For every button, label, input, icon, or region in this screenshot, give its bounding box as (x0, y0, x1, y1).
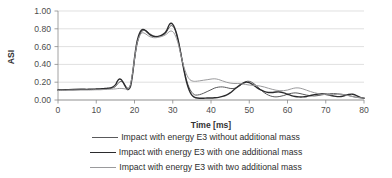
legend-swatch-series-1 (92, 137, 118, 138)
chart-plot-area: 0.000.200.400.600.801.00 010203040506070… (0, 0, 392, 132)
x-axis-title: Time [ms] (191, 120, 232, 130)
data-series-line-2 (58, 23, 364, 98)
y-axis-tick-labels: 0.000.200.400.600.801.00 (34, 6, 51, 105)
x-tick-label: 70 (321, 105, 331, 115)
legend-item: Impact with energy E3 with two additiona… (90, 160, 302, 174)
x-axis-tick-labels: 01020304050607080 (56, 105, 369, 115)
legend-item: Impact with energy E3 without additional… (92, 130, 300, 144)
y-tick-label: 0.00 (34, 95, 51, 105)
chart-legend: Impact with energy E3 without additional… (0, 130, 392, 174)
legend-label-series-2: Impact with energy E3 with one additiona… (119, 147, 303, 157)
x-tick-label: 30 (168, 105, 178, 115)
x-tick-label: 0 (56, 105, 61, 115)
y-tick-label: 0.20 (34, 77, 51, 87)
y-tick-label: 1.00 (34, 6, 51, 16)
x-tick-label: 20 (130, 105, 140, 115)
legend-swatch-series-2 (90, 152, 116, 153)
legend-item: Impact with energy E3 with one additiona… (90, 145, 303, 159)
data-series-line-1 (58, 26, 364, 98)
chart-figure: 0.000.200.400.600.801.00 010203040506070… (0, 0, 392, 178)
x-tick-label: 80 (359, 105, 369, 115)
y-tick-label: 0.40 (34, 59, 51, 69)
y-axis-title: ASI (6, 50, 16, 64)
legend-label-series-3: Impact with energy E3 with two additiona… (119, 162, 302, 172)
legend-swatch-series-3 (90, 167, 116, 168)
x-tick-label: 40 (206, 105, 216, 115)
x-tick-label: 50 (244, 105, 254, 115)
data-series-group (58, 23, 364, 98)
x-tick-label: 10 (91, 105, 101, 115)
gridlines (58, 11, 364, 100)
x-tick-label: 60 (283, 105, 293, 115)
y-tick-label: 0.80 (34, 24, 51, 34)
legend-label-series-1: Impact with energy E3 without additional… (121, 132, 300, 142)
y-tick-label: 0.60 (34, 42, 51, 52)
